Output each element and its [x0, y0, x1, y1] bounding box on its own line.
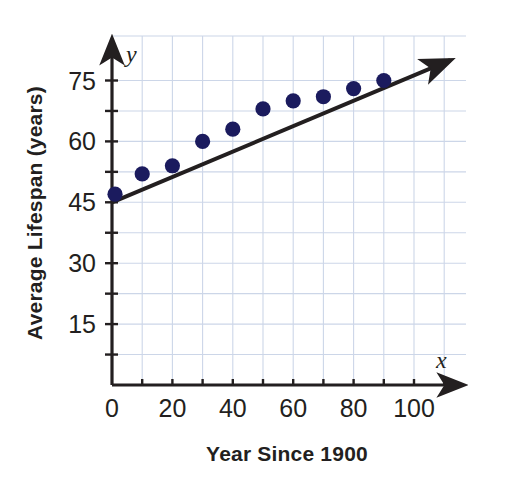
- data-point: [135, 166, 150, 181]
- y-tick-label: 15: [68, 310, 96, 338]
- data-point: [225, 122, 240, 137]
- y-axis-title: Average Lifespan (years): [23, 86, 46, 340]
- scatter-plot: 0204060801001530456075 y x Year Since 19…: [0, 0, 512, 491]
- grid-lines: [112, 36, 466, 385]
- axes: [112, 40, 462, 385]
- x-tick-label: 100: [393, 394, 435, 422]
- x-tick-label: 20: [158, 394, 186, 422]
- x-tick-label: 0: [105, 394, 119, 422]
- line-of-fit: [112, 60, 450, 202]
- y-variable-label: y: [124, 41, 137, 67]
- x-tick-label: 60: [279, 394, 307, 422]
- data-point: [376, 73, 391, 88]
- x-axis-title: Year Since 1900: [206, 442, 368, 465]
- y-tick-label: 45: [68, 188, 96, 216]
- data-point: [195, 134, 210, 149]
- data-point: [346, 81, 361, 96]
- y-tick-label: 30: [68, 249, 96, 277]
- trend-line-group: [112, 60, 450, 202]
- x-tick-label: 80: [340, 394, 368, 422]
- y-tick-label: 60: [68, 127, 96, 155]
- data-point: [286, 93, 301, 108]
- data-point: [316, 89, 331, 104]
- data-points: [107, 73, 391, 202]
- data-point: [255, 101, 270, 116]
- data-point: [165, 158, 180, 173]
- data-point: [107, 187, 122, 202]
- x-variable-label: x: [435, 347, 447, 373]
- y-tick-label: 75: [68, 67, 96, 95]
- x-tick-label: 40: [219, 394, 247, 422]
- chart-figure: 0204060801001530456075 y x Year Since 19…: [0, 0, 512, 491]
- axis-tick-labels: 0204060801001530456075: [68, 67, 435, 423]
